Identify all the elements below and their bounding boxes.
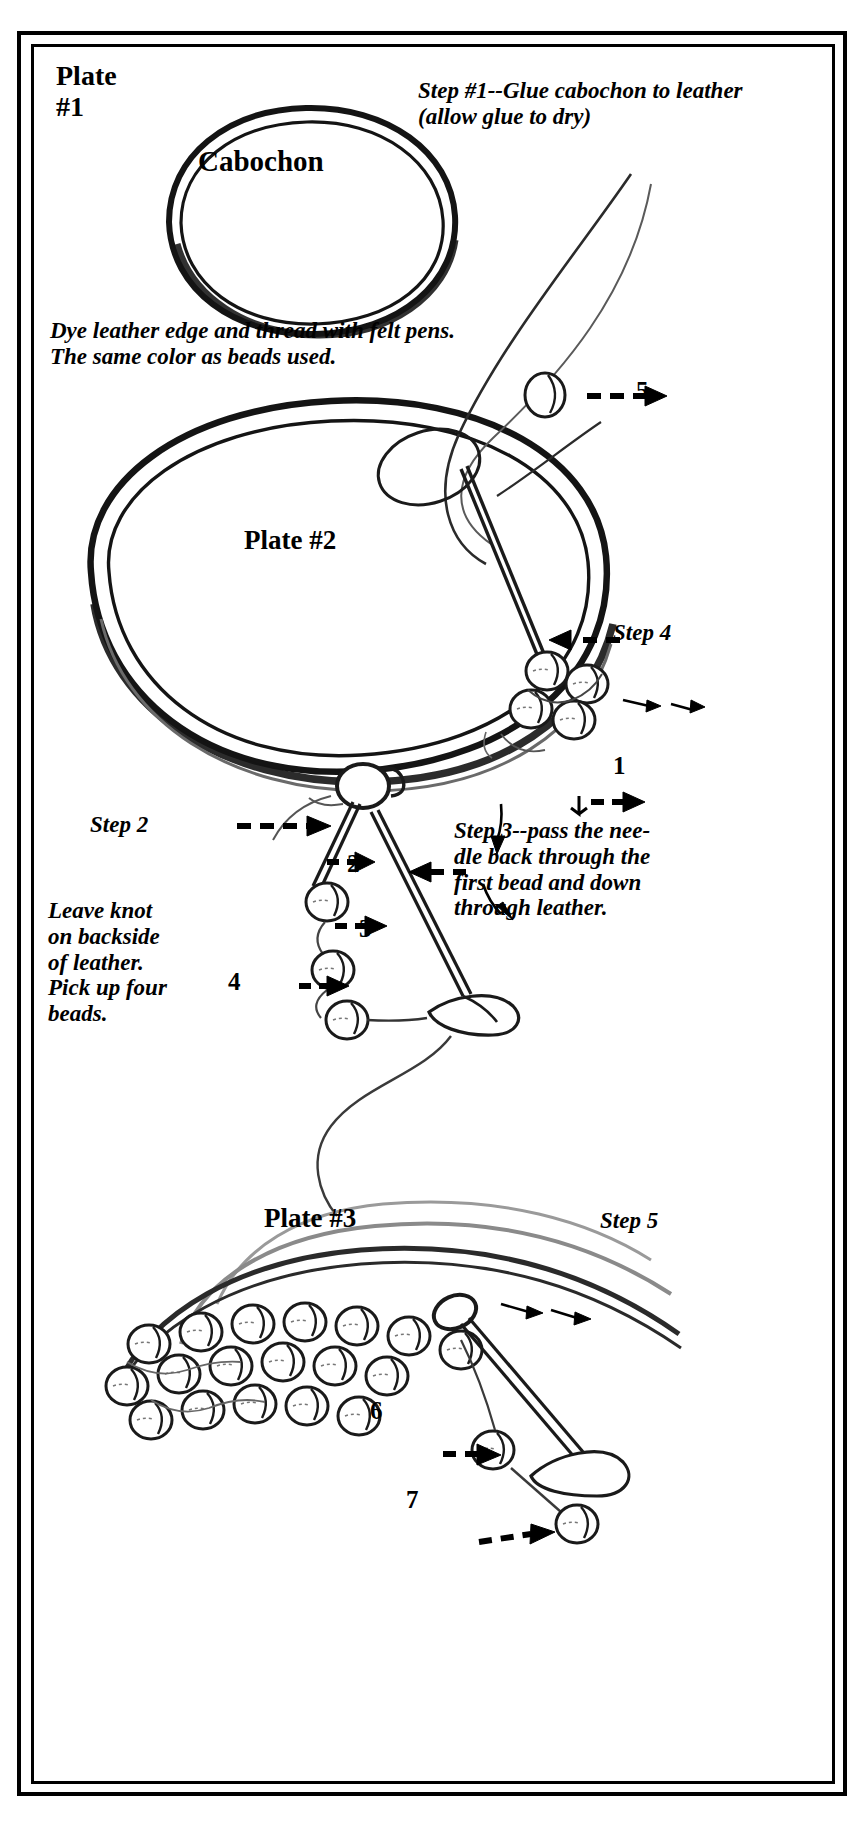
- leave-knot-note: Leave knot on backside of leather. Pick …: [48, 898, 278, 1027]
- step1-note: Step #1--Glue cabochon to leather (allow…: [418, 78, 748, 130]
- needle-path-plate3: [428, 1288, 628, 1543]
- leather-oval-plate2: [91, 400, 613, 791]
- step4-label: Step 4: [613, 620, 671, 646]
- dye-note: Dye leather edge and thread with felt pe…: [50, 318, 470, 370]
- step3-note: Step 3--pass the nee- dle back through t…: [454, 818, 754, 921]
- step2-label: Step 2: [90, 812, 148, 838]
- arrows: [237, 386, 705, 1544]
- bead-number-1: 1: [613, 752, 626, 780]
- thread-lines-plate2: [368, 174, 651, 680]
- bead-cluster-step4: [484, 652, 608, 758]
- bead-number-7: 7: [406, 1486, 419, 1514]
- plate1-title: Plate #1: [56, 60, 117, 123]
- bead-number-6: 6: [370, 1397, 383, 1425]
- cabochon-label: Cabochon: [198, 145, 324, 177]
- plate2-title: Plate #2: [244, 525, 336, 555]
- bead-5: [525, 373, 565, 417]
- bead-number-2: 2: [347, 850, 360, 878]
- bead-number-3: 3: [359, 915, 372, 943]
- bead-number-5: 5: [636, 377, 649, 405]
- cabochon-outline: [169, 108, 455, 335]
- bead-number-4: 4: [228, 968, 241, 996]
- step5-label: Step 5: [600, 1208, 658, 1234]
- plate3-title: Plate #3: [264, 1203, 356, 1233]
- illustration-page: Plate #1 Cabochon Step #1--Glue cabochon…: [0, 0, 868, 1825]
